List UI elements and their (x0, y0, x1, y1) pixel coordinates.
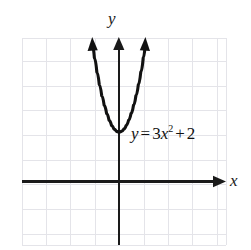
equation-lhs: y (131, 124, 139, 143)
y-axis-label: y (108, 10, 116, 27)
y-axis-arrowhead (113, 37, 124, 50)
curve-right-arrowhead (140, 37, 150, 51)
equation-equals: = (139, 124, 153, 143)
x-axis (22, 176, 226, 187)
equation-plus: + (173, 124, 187, 143)
equation-constant: 2 (187, 124, 196, 143)
coordinate-plane (0, 0, 251, 250)
graph-figure: y x y=3x2+2 (0, 0, 251, 250)
grid-lines (22, 38, 226, 245)
x-axis-arrowhead (213, 176, 226, 187)
x-axis-label: x (230, 172, 238, 189)
equation-annotation: y=3x2+2 (131, 125, 195, 142)
equation-coefficient: 3 (152, 124, 161, 143)
y-axis (113, 37, 124, 245)
curve-left-arrowhead (88, 37, 98, 51)
